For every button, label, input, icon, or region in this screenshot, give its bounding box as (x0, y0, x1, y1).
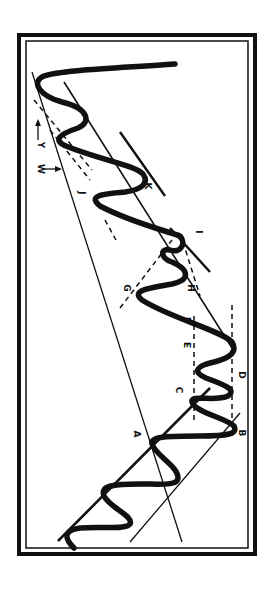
label-k: K (143, 183, 153, 191)
lower-thick-channel-line (58, 388, 210, 541)
label-y: Y (36, 141, 46, 149)
label-f: F (182, 317, 192, 323)
label-g: G (122, 284, 132, 291)
label-j: J (77, 190, 87, 194)
arrow-y-head (35, 119, 41, 126)
label-w: W (36, 164, 46, 174)
label-b: B (237, 430, 247, 437)
arrow-w-head (55, 166, 62, 172)
wave-channel-diagram: Y W J K I G H F E C D B A (0, 0, 274, 591)
label-c: C (174, 387, 184, 394)
label-a: A (132, 431, 142, 438)
label-i: I (194, 230, 204, 233)
label-e: E (182, 342, 192, 348)
upper-right-channel-line (64, 82, 232, 348)
label-d: D (237, 371, 247, 378)
dashed-line-j (105, 220, 116, 240)
label-h: H (186, 284, 196, 292)
